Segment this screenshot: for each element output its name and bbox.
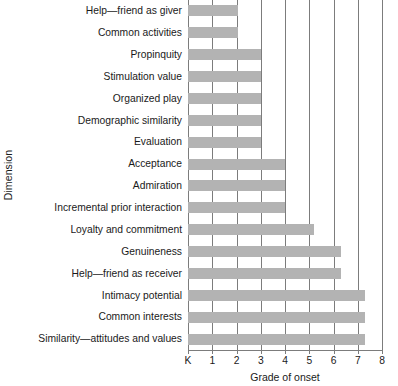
category-label: Admiration — [133, 175, 182, 197]
bar — [188, 137, 261, 148]
bar — [188, 49, 261, 60]
x-tick-label: 7 — [348, 355, 368, 366]
category-label: Intimacy potential — [102, 285, 182, 307]
bar — [188, 224, 314, 235]
category-label: Evaluation — [134, 131, 182, 153]
bar — [188, 115, 261, 126]
horizontal-bar-chart: Dimension Help—friend as giverCommon act… — [0, 0, 398, 386]
category-label: Propinquity — [130, 44, 182, 66]
category-label: Help—friend as giver — [86, 0, 182, 22]
x-tick — [261, 350, 262, 354]
category-label: Demographic similarity — [78, 110, 182, 132]
category-label: Common interests — [98, 306, 182, 328]
x-tick-label: 6 — [324, 355, 344, 366]
x-axis-title: Grade of onset — [188, 371, 382, 383]
y-axis-title: Dimension — [0, 0, 16, 350]
x-tick — [334, 350, 335, 354]
x-tick — [212, 350, 213, 354]
x-tick-label: 2 — [227, 355, 247, 366]
y-axis-title-label: Dimension — [2, 150, 14, 201]
bar — [188, 5, 238, 16]
x-tick-label: 8 — [372, 355, 392, 366]
bar — [188, 180, 285, 191]
category-label: Acceptance — [128, 153, 182, 175]
category-label: Organized play — [113, 88, 182, 110]
bar — [188, 312, 365, 323]
bar — [188, 202, 285, 213]
category-label: Similarity—attitudes and values — [38, 328, 182, 350]
category-label: Stimulation value — [104, 66, 182, 88]
bar — [188, 334, 365, 345]
category-label: Help—friend as receiver — [72, 263, 182, 285]
x-tick — [309, 350, 310, 354]
plot-area — [188, 0, 382, 350]
x-tick — [358, 350, 359, 354]
bar — [188, 27, 238, 38]
x-tick — [188, 350, 189, 354]
x-tick-label: 5 — [299, 355, 319, 366]
gridline-8 — [382, 0, 383, 350]
category-label: Genuineness — [121, 241, 182, 263]
bar — [188, 159, 285, 170]
category-label: Loyalty and commitment — [70, 219, 182, 241]
bar — [188, 93, 261, 104]
x-tick-label: 4 — [275, 355, 295, 366]
bar — [188, 290, 365, 301]
bar — [188, 268, 341, 279]
category-label: Incremental prior interaction — [54, 197, 182, 219]
category-label: Common activities — [98, 22, 182, 44]
bar — [188, 246, 341, 257]
x-tick — [285, 350, 286, 354]
x-tick-label: 3 — [251, 355, 271, 366]
bar — [188, 71, 261, 82]
x-tick-label: K — [178, 355, 198, 366]
category-label-column: Help—friend as giverCommon activitiesPro… — [16, 0, 186, 350]
x-tick — [382, 350, 383, 354]
x-tick-label: 1 — [202, 355, 222, 366]
x-tick — [237, 350, 238, 354]
